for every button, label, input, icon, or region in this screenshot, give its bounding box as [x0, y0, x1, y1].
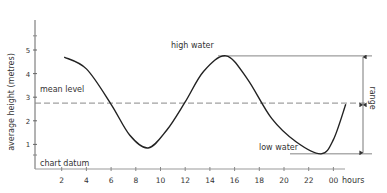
tide-chart: 12345 24681012141618202200 average heigh…: [0, 0, 387, 193]
chart-datum-label: chart datum: [40, 159, 90, 168]
x-tick-label: 20: [279, 176, 289, 185]
x-axis-label: hours: [342, 176, 365, 185]
y-tick-label: 2: [26, 118, 30, 126]
y-tick-label: 4: [26, 71, 31, 79]
y-tick-label: 3: [26, 94, 30, 102]
mean-level-label: mean level: [40, 85, 84, 94]
x-ticks: 24681012141618202200: [59, 167, 338, 185]
y-tick-label: 1: [26, 141, 30, 149]
x-tick-label: 4: [84, 176, 89, 185]
x-tick-label: 14: [205, 176, 215, 185]
x-tick-label: 22: [304, 176, 314, 185]
tide-curve: [64, 56, 346, 154]
range-label: range: [368, 86, 377, 109]
x-tick-label: 16: [230, 176, 240, 185]
x-tick-label: 6: [109, 176, 114, 185]
x-tick-label: 00: [329, 176, 339, 185]
x-tick-label: 2: [59, 176, 64, 185]
high-water-label: high water: [171, 41, 214, 50]
x-tick-label: 12: [180, 176, 190, 185]
low-water-label: low water: [259, 143, 299, 152]
y-tick-label: 5: [26, 47, 30, 55]
x-tick-label: 8: [133, 176, 138, 185]
x-tick-label: 18: [255, 176, 265, 185]
y-axis-label: average height (metres): [7, 53, 16, 151]
x-tick-label: 10: [156, 176, 166, 185]
